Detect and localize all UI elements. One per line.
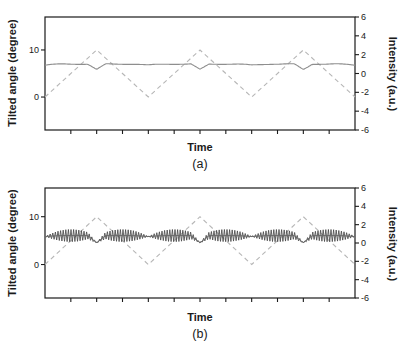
right-tick-label: -2 — [361, 87, 369, 97]
right-tick-label: 6 — [361, 12, 366, 22]
x-axis-title: Time — [187, 141, 212, 153]
panel-caption: (b) — [192, 327, 207, 341]
left-axis-title: Tilted angle (degree) — [6, 19, 18, 127]
left-tick-label: 10 — [29, 45, 39, 55]
right-axis-title: Intensity (a.u.) — [387, 37, 399, 112]
triangle-drive-wave — [45, 50, 355, 97]
oscillation-band — [45, 230, 354, 243]
panel-b: Tilted angle (degree) Intensity (a.u.) T… — [0, 177, 400, 354]
x-axis-title: Time — [187, 311, 212, 323]
left-tick-label: 0 — [34, 260, 39, 270]
left-tick-label: 0 — [34, 92, 39, 102]
right-tick-label: 0 — [361, 238, 366, 248]
right-tick-label: -6 — [361, 125, 369, 135]
right-tick-label: -2 — [361, 256, 369, 266]
panel-caption: (a) — [192, 157, 207, 171]
right-tick-label: -6 — [361, 293, 369, 303]
left-axis-title: Tilted angle (degree) — [6, 189, 18, 297]
right-tick-label: 4 — [361, 201, 366, 211]
figure: Tilted angle (degree) Intensity (a.u.) T… — [0, 0, 400, 354]
right-tick-label: -4 — [361, 275, 369, 285]
panel-b-chart: Tilted angle (degree) Intensity (a.u.) T… — [0, 177, 400, 354]
right-tick-label: -4 — [361, 106, 369, 116]
plot-frame — [45, 17, 355, 130]
panel-a-chart: Tilted angle (degree) Intensity (a.u.) T… — [0, 0, 400, 177]
right-tick-label: 2 — [361, 220, 366, 230]
panel-a: Tilted angle (degree) Intensity (a.u.) T… — [0, 0, 400, 177]
right-axis-title: Intensity (a.u.) — [387, 207, 399, 282]
right-tick-label: 2 — [361, 50, 366, 60]
intensity-response-line — [45, 64, 355, 69]
right-tick-label: 4 — [361, 31, 366, 41]
right-tick-label: 6 — [361, 183, 366, 193]
right-tick-label: 0 — [361, 69, 366, 79]
left-tick-label: 10 — [29, 212, 39, 222]
